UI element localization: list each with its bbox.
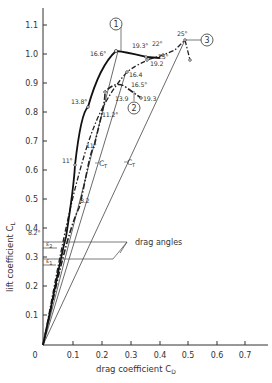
lift-drag-polar-chart: 0.1 0.2 0.3 0.4 0.5 0.6 0.7 0.8 0.9 1.0 … [0,0,272,383]
callout-2: 2 [128,91,140,114]
svg-text:25°: 25° [158,53,169,60]
drag-angles-label: drag angles [135,238,182,247]
svg-text:2: 2 [131,104,136,113]
y-tick-labels: 0.1 0.2 0.3 0.4 0.5 0.6 0.7 0.8 0.9 1.0 … [25,21,38,320]
x-tick-labels: 0 0.1 0.2 0.3 0.4 0.5 0.6 0.7 [32,351,251,360]
svg-text:11.2°: 11.2° [102,111,118,118]
y-tick: 0.2 [25,282,38,291]
y-tick: 1.0 [25,50,38,59]
series-3-curve [43,40,190,345]
y-tick: 0.5 [25,195,38,204]
ct-labels: CT CT [95,158,136,169]
callout-3: 3 [186,34,213,46]
x-tick: 0.1 [67,351,80,360]
y-axis-title: lift coefficient CL [5,221,16,292]
drag-angles [43,242,127,265]
svg-text:CT: CT [127,158,136,168]
svg-text:16.4: 16.4 [129,71,142,78]
series-2-curve [43,85,141,345]
y-tick: 0.3 [25,253,38,262]
x-tick: 0.5 [182,351,195,360]
svg-text:1: 1 [113,20,118,29]
svg-text:19.3: 19.3 [143,95,156,102]
tangent-lines [43,40,185,345]
svg-text:CT: CT [99,159,108,169]
svg-text:16.5°: 16.5° [131,81,147,88]
x-tick: 0 [32,351,37,360]
y-tick: 0.9 [25,79,38,88]
svg-text:11°: 11° [86,142,97,149]
y-tick: 0.6 [25,166,38,175]
x-tick: 0.7 [239,351,252,360]
svg-text:13.8°: 13.8° [71,98,87,105]
svg-text:3: 3 [204,36,209,45]
svg-text:16.6°: 16.6° [90,50,106,57]
y-tick: 1.1 [25,21,38,30]
svg-text:19.2: 19.2 [150,60,163,67]
svg-text:8.2°: 8.2° [28,229,40,236]
x-tick: 0.4 [154,351,167,360]
svg-text:8.2: 8.2 [80,197,90,204]
x-axis-title: drag coefficient CD [96,364,176,375]
svg-text:22°: 22° [152,40,163,47]
y-tick: 0.7 [25,137,38,146]
x-tick: 0.3 [125,351,138,360]
callout-1: 1 [110,18,122,51]
y-tick: 0.8 [25,108,38,117]
x-tick: 0.6 [211,351,224,360]
svg-text:13.9: 13.9 [115,95,128,102]
svg-text:11°: 11° [62,157,73,164]
svg-text:25°: 25° [177,30,188,37]
svg-text:19.3°: 19.3° [132,42,148,49]
epsilon-1-label: ε1 [46,257,52,266]
epsilon-2-label: ε2 [46,240,52,249]
y-tick: 0.1 [25,311,38,320]
x-tick: 0.2 [96,351,109,360]
